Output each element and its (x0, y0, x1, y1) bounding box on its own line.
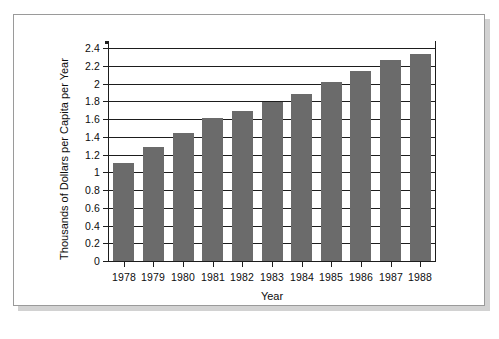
bar (350, 71, 371, 261)
screenshot-root: 00.20.40.60.811.21.41.61.822.22.4 197819… (0, 0, 499, 339)
y-axis-title: Thousands of Dollars per Capita per Year (58, 52, 70, 267)
x-tick-mark (124, 262, 125, 267)
x-tick-mark (272, 262, 273, 267)
bar (380, 60, 401, 261)
bar (143, 147, 164, 261)
x-tick-label: 1988 (398, 271, 442, 283)
y-tick-label: 0 (40, 256, 100, 266)
bar (232, 111, 253, 261)
x-tick-mark (331, 262, 332, 267)
bar (113, 163, 134, 261)
bar (321, 82, 342, 261)
x-tick-mark (213, 262, 214, 267)
x-tick-mark (242, 262, 243, 267)
plot-right-border (435, 41, 436, 262)
bar (291, 94, 312, 261)
x-tick-mark (361, 262, 362, 267)
x-tick-mark (153, 262, 154, 267)
bar (410, 54, 431, 261)
x-tick-mark (183, 262, 184, 267)
y-axis-arrow-cap (105, 41, 109, 44)
y-axis-title-holder: Thousands of Dollars per Capita per Year (38, 35, 52, 255)
x-tick-mark (391, 262, 392, 267)
bar (262, 102, 283, 261)
x-axis-title: Year (109, 290, 435, 302)
x-tick-mark (420, 262, 421, 267)
bar-chart: 00.20.40.60.811.21.41.61.822.22.4 197819… (14, 15, 486, 307)
chart-card: 00.20.40.60.811.21.41.61.822.22.4 197819… (13, 14, 485, 306)
x-tick-mark (302, 262, 303, 267)
bars-group (109, 48, 435, 261)
bar (173, 133, 194, 261)
bar (202, 118, 223, 261)
